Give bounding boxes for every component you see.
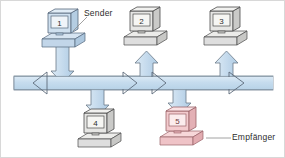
- pc1-stand: [56, 33, 63, 35]
- pc3-base-front: [204, 37, 237, 45]
- pc1-base-front: [42, 39, 75, 47]
- computer-node-5[interactable]: 5: [160, 107, 203, 145]
- label-empfaenger: Empfänger: [232, 132, 275, 142]
- computer-node-3[interactable]: 3: [204, 7, 247, 45]
- bus-band-overlay: [14, 76, 273, 89]
- pc5-number: 5: [175, 117, 180, 126]
- pc1-number: 1: [57, 19, 62, 28]
- label-sender: Sender: [84, 8, 113, 18]
- computer-node-1[interactable]: 1: [42, 9, 85, 47]
- pc5-base-front: [160, 137, 193, 145]
- pc4-base-front: [78, 139, 111, 147]
- computer-node-2[interactable]: 2: [124, 7, 167, 45]
- pc4-number: 4: [93, 119, 98, 128]
- computer-node-4[interactable]: 4: [78, 109, 121, 147]
- diagram-canvas: 1 2 3: [0, 0, 285, 158]
- pc3-number: 3: [219, 17, 224, 26]
- pc2-number: 2: [139, 17, 144, 26]
- pc3-stand: [218, 31, 225, 33]
- pc2-stand: [138, 31, 145, 33]
- pc4-stand: [92, 133, 99, 135]
- pc5-stand: [174, 131, 181, 133]
- pc2-base-front: [124, 37, 157, 45]
